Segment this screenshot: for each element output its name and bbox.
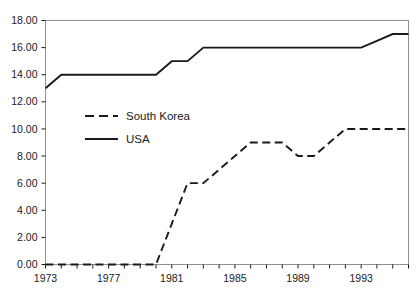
x-tick-label: 1993 [349, 272, 373, 284]
y-tick-label: 18.00 [11, 14, 37, 26]
x-tick-label: 1981 [160, 272, 184, 284]
y-tick-label: 12.00 [11, 95, 37, 107]
y-tick-label: 0.00 [17, 258, 38, 270]
legend-label-usa: USA [126, 133, 150, 145]
y-tick-label: 8.00 [17, 150, 38, 162]
x-tick-label: 1977 [97, 272, 121, 284]
x-tick-label: 1973 [34, 272, 58, 284]
y-tick-label: 14.00 [11, 68, 37, 80]
x-tick-label: 1985 [223, 272, 247, 284]
y-tick-label: 10.00 [11, 123, 37, 135]
y-tick-label: 16.00 [11, 41, 37, 53]
y-tick-label: 4.00 [17, 204, 38, 216]
chart-container: 0.002.004.006.008.0010.0012.0014.0016.00… [0, 0, 420, 305]
y-tick-label: 6.00 [17, 177, 38, 189]
chart-background [0, 0, 420, 305]
line-chart: 0.002.004.006.008.0010.0012.0014.0016.00… [0, 0, 420, 305]
y-tick-label: 2.00 [17, 231, 38, 243]
x-tick-label: 1989 [286, 272, 310, 284]
legend-label-south-korea: South Korea [126, 110, 191, 122]
